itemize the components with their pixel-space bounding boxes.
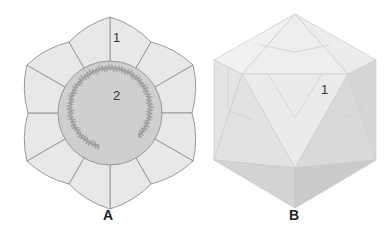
figure-a: 1 2 A [0,0,220,245]
figure-label-b: B [289,207,299,223]
label-1-b: 1 [321,82,328,97]
figure-b: 1 B [200,0,391,245]
label-1-a: 1 [113,30,120,45]
label-2-a: 2 [113,88,120,103]
figure-label-a: A [103,207,113,223]
